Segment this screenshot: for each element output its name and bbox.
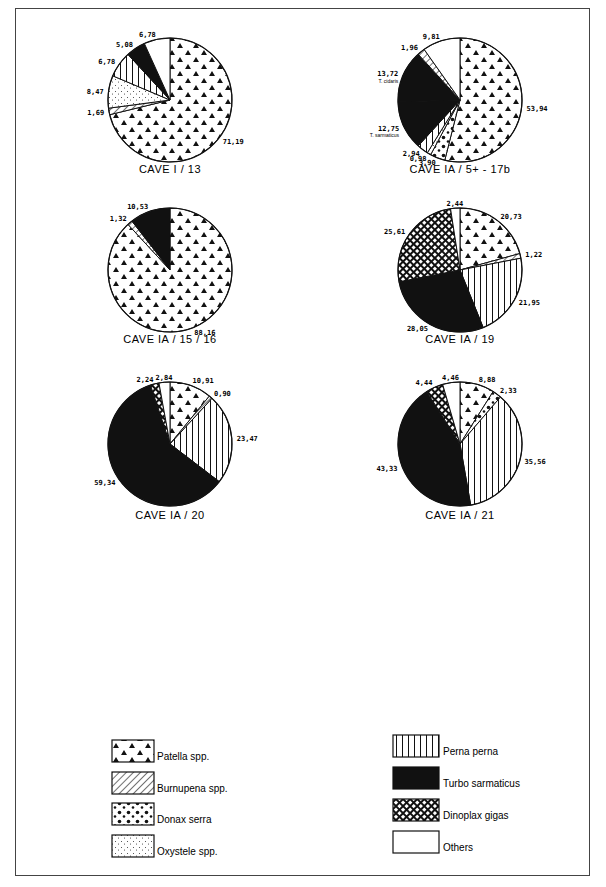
legend-item-oxystele: Oxystele spp. xyxy=(112,835,218,857)
legend-swatch-others xyxy=(393,831,439,853)
pie-chart-3: 88,161,3210,53CAVE IA / 15 / 16 xyxy=(108,203,232,345)
data-label: 10,91 xyxy=(193,377,214,385)
pie-title: CAVE IA / 15 / 16 xyxy=(123,333,216,345)
data-label: 8,47 xyxy=(87,88,104,96)
legend-swatch-turbo xyxy=(393,767,439,789)
legend-item-perna: Perna perna xyxy=(393,735,498,757)
pie-chart-4: 20,731,2221,9528,0525,612,44CAVE IA / 19 xyxy=(384,200,542,345)
legend-swatch-dinoplax xyxy=(393,799,439,821)
legend-swatch-perna xyxy=(393,735,439,757)
legend-label: Turbo sarmaticus xyxy=(443,778,520,789)
legend-item-burnupena: Burnupena spp. xyxy=(112,772,228,794)
data-label: 2,24 xyxy=(137,376,154,384)
legend-label: Perna perna xyxy=(443,746,498,757)
pie-chart-figure: 71,191,698,476,785,086,78CAVE I / 1353,9… xyxy=(0,0,606,887)
legend-swatch-donax xyxy=(112,803,154,825)
pie-title: CAVE IA / 19 xyxy=(425,333,494,345)
pie-title: CAVE I / 13 xyxy=(139,163,201,175)
data-label: 35,56 xyxy=(525,458,546,466)
legend-swatch-burnupena xyxy=(112,772,154,794)
data-label: 59,34 xyxy=(94,479,115,487)
data-label: 1,32 xyxy=(110,215,127,223)
data-label: 2,84 xyxy=(156,374,173,382)
data-label: 5,08 xyxy=(116,41,133,49)
data-label: 1,96 xyxy=(401,44,418,52)
legend-label: Patella spp. xyxy=(157,751,209,762)
data-label: 4,46 xyxy=(442,374,459,382)
legend-label: Donax serra xyxy=(157,814,212,825)
legend-label: Others xyxy=(443,842,473,853)
legend-item-patella: Patella spp. xyxy=(112,740,209,762)
data-label: 23,47 xyxy=(237,435,258,443)
data-label: 71,19 xyxy=(223,138,244,146)
legend-item-dinoplax: Dinoplax gigas xyxy=(393,799,509,821)
pie-slice-dinoplax xyxy=(398,209,460,282)
legend-swatch-patella xyxy=(112,740,154,762)
data-label: 20,73 xyxy=(501,213,522,221)
data-label: 21,95 xyxy=(519,299,540,307)
legend-label: Burnupena spp. xyxy=(157,783,228,794)
data-label: 10,53 xyxy=(127,203,148,211)
pie-chart-5: 10,910,9023,4759,342,242,84CAVE IA / 20 xyxy=(94,374,257,521)
pie-title: CAVE IA / 21 xyxy=(425,509,494,521)
data-label: 0,90 xyxy=(214,390,231,398)
pie-chart-6: 8,882,3335,5643,334,444,46CAVE IA / 21 xyxy=(376,374,545,521)
data-label: 1,69 xyxy=(87,109,104,117)
data-label: 43,33 xyxy=(376,465,397,473)
data-label: 2,94 xyxy=(403,150,420,158)
data-sublabel: T. sarmaticus xyxy=(370,132,400,138)
legend-item-turbo: Turbo sarmaticus xyxy=(393,767,520,789)
data-label: 6,78 xyxy=(98,58,115,66)
data-label: 1,22 xyxy=(525,251,542,259)
pie-title: CAVE IA / 5+ - 17b xyxy=(410,163,511,175)
legend-swatch-oxystele xyxy=(112,835,154,857)
legend: Patella spp.Burnupena spp.Donax serraOxy… xyxy=(112,735,520,857)
data-label: 6,78 xyxy=(139,31,156,39)
data-label: 25,61 xyxy=(384,228,405,236)
data-label: 2,33 xyxy=(500,387,517,395)
data-label: 53,94 xyxy=(526,105,547,113)
data-label: 2,44 xyxy=(446,200,463,208)
data-sublabel: T. cidaris xyxy=(379,78,399,84)
pie-chart-2: 53,943,900,982,9412,75T. sarmaticus13,72… xyxy=(370,33,548,175)
legend-label: Oxystele spp. xyxy=(157,846,218,857)
pie-title: CAVE IA / 20 xyxy=(135,509,204,521)
pie-chart-1: 71,191,698,476,785,086,78CAVE I / 13 xyxy=(87,31,244,175)
data-label: 4,44 xyxy=(416,379,433,387)
legend-item-others: Others xyxy=(393,831,473,853)
data-label: 8,88 xyxy=(479,376,496,384)
legend-label: Dinoplax gigas xyxy=(443,810,509,821)
legend-item-donax: Donax serra xyxy=(112,803,212,825)
data-label: 9,81 xyxy=(423,33,440,41)
